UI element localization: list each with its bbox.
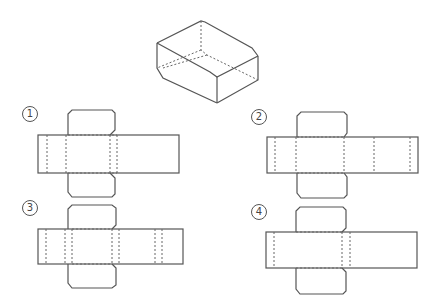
option-label-1: 1 (22, 106, 38, 122)
option-label-4: 4 (251, 204, 267, 220)
net-option-4 (266, 207, 417, 294)
box-3d (157, 21, 258, 103)
net-option-3 (38, 205, 183, 288)
diagram-canvas (0, 0, 439, 308)
option-label-2: 2 (251, 109, 267, 125)
net-option-1 (38, 110, 179, 197)
option-label-3: 3 (22, 200, 38, 216)
net-option-2 (267, 112, 418, 198)
